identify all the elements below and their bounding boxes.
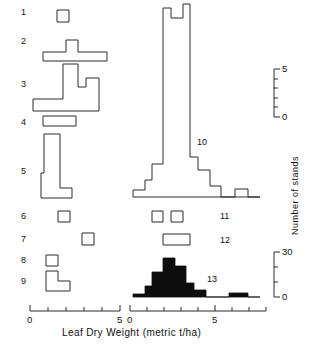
x-axis-right (130, 305, 266, 311)
histogram-outline-5 (41, 134, 72, 198)
x-axis-left (30, 305, 120, 311)
x-tick-left-0: 0 (27, 314, 32, 325)
y-axis-caption: Number of stands (290, 125, 300, 235)
histogram-outline-12 (163, 234, 190, 245)
x-tick-left-5: 5 (117, 314, 122, 325)
y-tick-lower-30: 30 (282, 246, 293, 257)
histogram-outline-10 (133, 4, 260, 197)
histogram-plot-area (0, 0, 309, 351)
y-tick-upper-0: 0 (282, 111, 287, 122)
histogram-outline-4 (43, 116, 76, 126)
histogram-outline-11b (171, 211, 183, 222)
x-axis-caption: Leaf Dry Weight (metric t/ha) (62, 327, 201, 338)
y-tick-lower-0: 0 (282, 291, 287, 302)
histogram-outline-3 (33, 64, 99, 111)
x-tick-right-5: 5 (212, 314, 217, 325)
histogram-outline-7 (82, 233, 94, 245)
histogram-outline-6 (58, 211, 70, 222)
histogram-outline-9 (46, 271, 70, 291)
x-tick-right-0: 0 (127, 314, 132, 325)
histogram-outline-8 (46, 255, 58, 266)
count-scale-lower (274, 252, 280, 297)
histogram-filled-13 (133, 258, 260, 297)
y-tick-upper-5: 5 (282, 63, 287, 74)
count-scale-upper (274, 69, 280, 117)
histogram-outline-2 (43, 40, 107, 61)
histogram-outline-1 (57, 10, 69, 22)
figure-canvas: 1 2 3 4 5 6 7 8 9 10 11 12 13 (0, 0, 309, 351)
histogram-outline-11a (152, 211, 163, 222)
